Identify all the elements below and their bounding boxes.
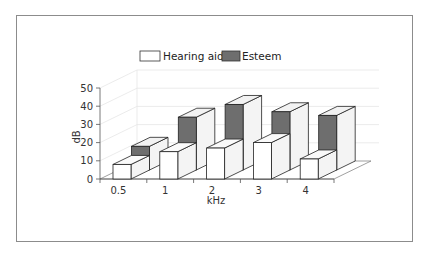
bar-front-face	[300, 159, 318, 179]
bar-hearing-aid-2	[207, 139, 244, 179]
bar-hearing-aid-0.5	[113, 155, 150, 179]
side-gridline	[100, 70, 137, 88]
legend-label-esteem: Esteem	[242, 50, 281, 62]
y-tick-label: 10	[80, 155, 93, 166]
bar-hearing-aid-3	[253, 134, 290, 179]
x-axis-title: kHz	[207, 195, 226, 206]
y-tick-label: 50	[80, 83, 93, 94]
chart-3d-bar: 01020304050 0.51234 Hearing aid Esteem d…	[0, 0, 425, 260]
bar-front-face	[160, 152, 178, 179]
side-gridline	[100, 88, 137, 106]
y-tick-label: 40	[80, 101, 93, 112]
x-tick-label: 0.5	[110, 185, 126, 196]
bar-front-face	[113, 164, 131, 179]
x-tick-label: 1	[162, 185, 168, 196]
y-tick-label: 20	[80, 137, 93, 148]
side-gridline	[100, 125, 137, 143]
x-tick-label: 4	[302, 185, 308, 196]
legend-swatch-hearing-aid	[140, 51, 160, 61]
y-axis-title: dB	[71, 130, 82, 143]
bars	[113, 95, 355, 179]
bar-front-face	[207, 148, 225, 179]
y-axis: 01020304050	[80, 83, 100, 185]
side-gridline	[100, 106, 137, 124]
x-axis: 0.51234	[100, 179, 334, 196]
legend: Hearing aid Esteem	[140, 50, 281, 62]
x-tick-label: 3	[256, 185, 262, 196]
y-tick-label: 30	[80, 119, 93, 130]
legend-swatch-esteem	[222, 51, 240, 61]
bar-side-face	[337, 106, 356, 170]
bar-front-face	[253, 143, 271, 179]
legend-label-hearing-aid: Hearing aid	[163, 50, 224, 62]
y-tick-label: 0	[87, 174, 93, 185]
